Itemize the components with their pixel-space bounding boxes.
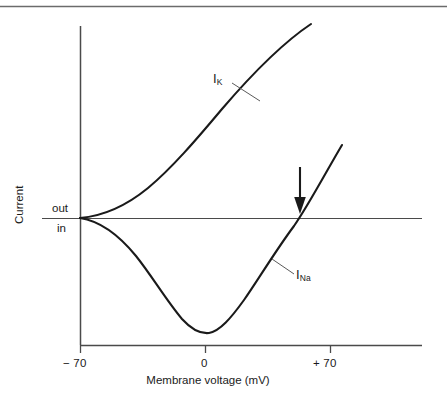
reversal-potential-arrow [294,167,306,214]
ina-curve-label: INa [296,268,311,281]
ik-curve [80,24,311,218]
current-direction-out-label: out [52,203,68,215]
x-axis-title: Membrane voltage (mV) [146,375,269,387]
ina-label-subscript: Na [300,273,311,283]
current-direction-in-label: in [57,223,66,235]
x-tick-label-zero: 0 [201,358,208,370]
ina-curve [80,145,342,333]
plot-canvas [0,0,447,399]
ik-curve-label: IK [213,72,223,85]
y-axis-title: Current [14,186,26,224]
iv-curve-figure: − 70 0 + 70 Membrane voltage (mV) Curren… [0,0,447,399]
x-tick-label-pos70: + 70 [313,358,337,370]
ik-label-subscript: K [217,77,223,87]
x-tick-label-neg70: − 70 [63,358,87,370]
ina-leader-line [272,259,294,274]
